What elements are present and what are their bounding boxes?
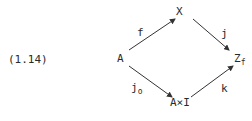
node-Z-base: Z: [234, 52, 241, 65]
node-Z-f: Zf: [234, 53, 245, 65]
label-j0-base: j: [131, 81, 138, 94]
label-j: j: [221, 28, 228, 39]
label-k: k: [221, 83, 228, 94]
node-X: X: [176, 6, 183, 17]
node-Z-subscript: f: [241, 58, 246, 67]
arrow-f: [129, 19, 175, 50]
label-j0: jo: [131, 82, 142, 94]
equation-number: (1.14): [8, 54, 48, 65]
label-f: f: [137, 27, 144, 38]
label-j0-subscript: o: [138, 87, 143, 96]
node-A: A: [117, 53, 124, 64]
node-AxI: A×I: [170, 97, 190, 108]
